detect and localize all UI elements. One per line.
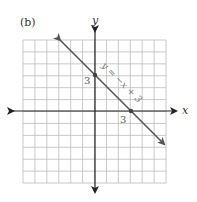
equation-label: y = −x + 3	[99, 59, 145, 105]
x-axis-label: x	[182, 104, 189, 117]
panel-label: (b)	[20, 16, 36, 29]
line-y-equals-neg-x-plus-3	[60, 40, 164, 144]
x-intercept-point	[129, 109, 133, 113]
coordinate-plane-figure: (b) x y 3 3 y = −x + 3	[0, 0, 197, 202]
x-intercept-label: 3	[120, 114, 126, 125]
y-intercept-label: 3	[84, 75, 90, 86]
y-intercept-point	[93, 73, 97, 77]
y-axis-label: y	[91, 14, 99, 27]
